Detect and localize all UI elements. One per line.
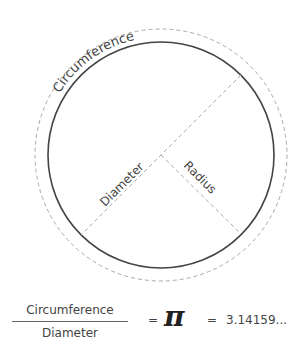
denominator: Diameter [12, 325, 128, 341]
fraction: Circumference Diameter [12, 302, 128, 341]
pi-formula: Circumference Diameter = π = 3.14159... [0, 300, 301, 354]
fraction-bar [12, 321, 128, 322]
circle-diagram: Circumference Diameter Radius [0, 0, 301, 300]
diameter-label: Diameter [97, 160, 147, 210]
equals-sign: = [148, 313, 158, 327]
numerator: Circumference [12, 302, 128, 318]
equals-sign-2: = [207, 313, 217, 327]
pi-value: 3.14159... [226, 313, 287, 327]
circumference-label: Circumference [49, 28, 135, 95]
pi-symbol: π [164, 302, 185, 332]
radius-label: Radius [181, 158, 219, 196]
